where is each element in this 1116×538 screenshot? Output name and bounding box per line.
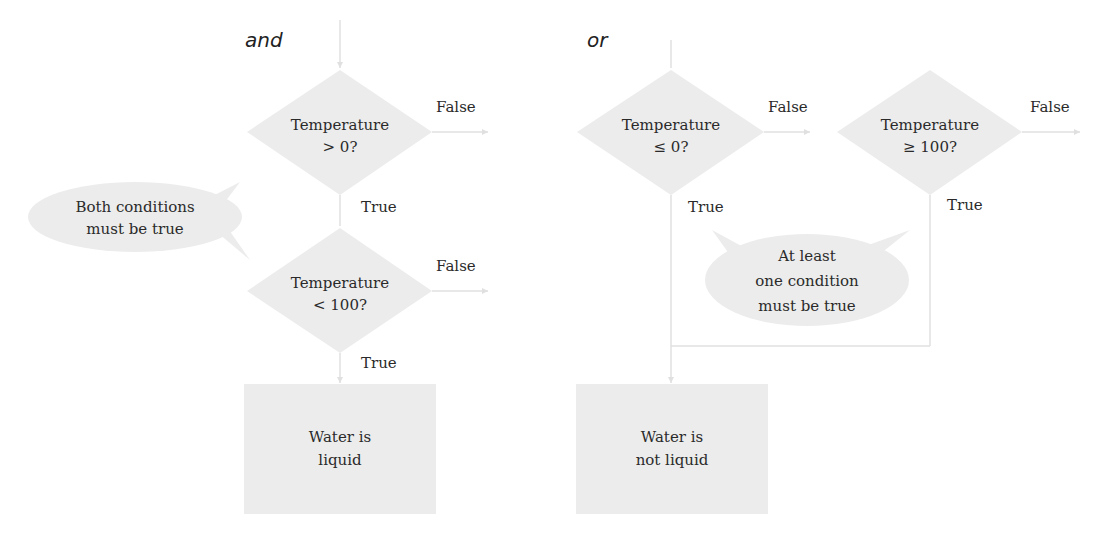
and-decision2-label: Temperature < 100?	[265, 272, 415, 316]
or-result-line2: not liquid	[576, 449, 768, 472]
and-decision1-line2: > 0?	[265, 136, 415, 158]
or-decision2-label: Temperature ≥ 100?	[855, 114, 1005, 158]
and-decision1-label: Temperature > 0?	[265, 114, 415, 158]
and-decision1-line1: Temperature	[265, 114, 415, 136]
and-decision2-line2: < 100?	[265, 294, 415, 316]
and-result-line1: Water is	[244, 426, 436, 449]
and-result-label: Water is liquid	[244, 426, 436, 472]
and-false1-label: False	[436, 98, 476, 116]
or-false2-label: False	[1030, 98, 1070, 116]
and-heading: and	[245, 28, 283, 52]
and-callout-line2: must be true	[35, 218, 235, 240]
and-callout-line1: Both conditions	[35, 196, 235, 218]
or-callout-line1: At least	[707, 244, 907, 269]
and-result-line2: liquid	[244, 449, 436, 472]
and-true2-label: True	[361, 354, 397, 372]
or-true1-label: True	[688, 198, 724, 216]
or-callout-label: At least one condition must be true	[707, 244, 907, 319]
or-decision1-line1: Temperature	[596, 114, 746, 136]
or-true2-label: True	[947, 196, 983, 214]
and-decision2-line1: Temperature	[265, 272, 415, 294]
or-decision2-line1: Temperature	[855, 114, 1005, 136]
or-callout-line2: one condition	[707, 269, 907, 294]
flowchart-shapes	[0, 0, 1116, 538]
or-false1-label: False	[768, 98, 808, 116]
and-true1-label: True	[361, 198, 397, 216]
and-callout-label: Both conditions must be true	[35, 196, 235, 240]
or-result-line1: Water is	[576, 426, 768, 449]
or-decision1-label: Temperature ≤ 0?	[596, 114, 746, 158]
and-false2-label: False	[436, 257, 476, 275]
or-decision1-line2: ≤ 0?	[596, 136, 746, 158]
or-callout-line3: must be true	[707, 294, 907, 319]
or-decision2-line2: ≥ 100?	[855, 136, 1005, 158]
or-heading: or	[587, 28, 607, 52]
or-result-label: Water is not liquid	[576, 426, 768, 472]
